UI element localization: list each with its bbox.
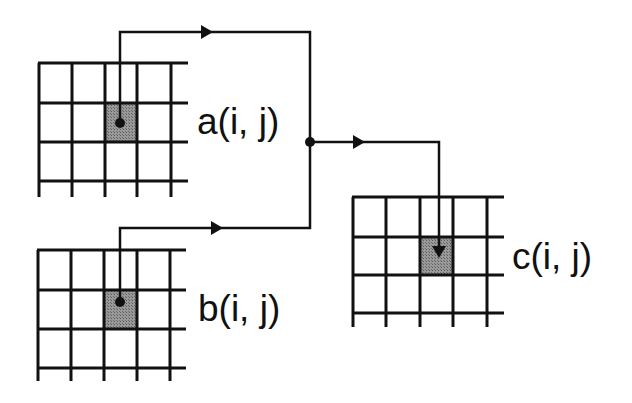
label-a: a(i, j): [197, 103, 279, 140]
grid-a: [38, 63, 188, 197]
label-c: c(i, j): [512, 238, 592, 275]
arrow-right-icon: [353, 135, 365, 149]
grid-b: [37, 250, 186, 381]
junction-dot: [305, 137, 315, 147]
arrow-right-icon: [211, 221, 223, 235]
diagram-canvas: [0, 0, 632, 403]
label-b: b(i, j): [198, 290, 280, 327]
grid-c-highlight-cell: [420, 237, 453, 275]
grid-a-source-dot: [115, 118, 125, 128]
grid-b-source-dot: [115, 297, 125, 307]
connector-b: [120, 142, 310, 302]
arrow-right-icon: [201, 25, 213, 39]
grid-c: [352, 197, 504, 327]
